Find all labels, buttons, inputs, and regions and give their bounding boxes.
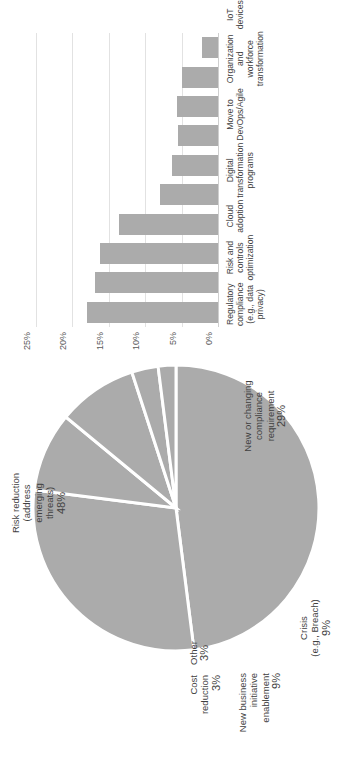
bar-slot bbox=[22, 62, 218, 91]
x-axis-line bbox=[218, 33, 219, 327]
pie-label-crisis-value: 9% bbox=[321, 583, 333, 673]
pie-label-cost-reduction: Cost reduction 3% bbox=[176, 675, 234, 749]
xlabel-digital-transformation: Digital transformation programs bbox=[225, 142, 357, 199]
bar-category-labels: Regulatory compliance (e.g., data privac… bbox=[225, 33, 357, 327]
pie-label-other-value: 3% bbox=[199, 623, 211, 683]
bar-slot bbox=[22, 180, 218, 209]
bar-cloud-adoption[interactable] bbox=[100, 243, 218, 264]
ytick-5: 5% bbox=[168, 332, 178, 345]
pie-label-new-business-value: 9% bbox=[271, 673, 283, 759]
xlabel-regulatory-compliance: Regulatory compliance (e.g., data privac… bbox=[225, 282, 357, 327]
bar-slot bbox=[22, 239, 218, 268]
bar-organization-workforce[interactable] bbox=[172, 155, 218, 176]
bar-blockchain-adoption[interactable] bbox=[202, 37, 218, 58]
ytick-20: 20% bbox=[58, 332, 68, 350]
bar-slot bbox=[22, 209, 218, 238]
bar-risk-controls-optimization[interactable] bbox=[95, 272, 218, 293]
chart-page: Risk reduction (address emerging threats… bbox=[0, 0, 361, 763]
bar-intelligent-automation[interactable] bbox=[182, 67, 218, 88]
bar-slot bbox=[22, 298, 218, 327]
xlabel-cloud-adoption: Cloud adoption bbox=[225, 199, 357, 234]
ytick-0: 0% bbox=[204, 332, 214, 345]
bar-devops-agile[interactable] bbox=[160, 184, 218, 205]
bar-slot bbox=[22, 268, 218, 297]
xlabel-devops-agile: Move to DevOps/Agile bbox=[225, 87, 357, 142]
bar-regulatory-compliance[interactable] bbox=[87, 302, 218, 323]
pie-chart-figure: Risk reduction (address emerging threats… bbox=[0, 363, 361, 763]
pie-label-risk-reduction-text: Risk reduction (address emerging threats… bbox=[10, 473, 56, 533]
pie-label-crisis-text: Crisis (e.g., Breach) bbox=[298, 599, 321, 657]
pie-label-other-text: Other bbox=[188, 641, 199, 665]
bar-iot-devices[interactable] bbox=[178, 125, 218, 146]
ytick-25: 25% bbox=[22, 332, 32, 350]
pie-label-new-business-text: New business initiative enablement bbox=[237, 673, 271, 732]
bar-slot bbox=[22, 121, 218, 150]
bar-plot-area: 0% 5% 10% 15% 20% 25% bbox=[22, 33, 219, 327]
pie-label-cost-reduction-value: 3% bbox=[211, 675, 223, 749]
pie-label-compliance: New or changing compliance requirement 2… bbox=[230, 361, 299, 471]
bar-series bbox=[22, 33, 218, 327]
bar-digital-transformation[interactable] bbox=[119, 214, 218, 235]
pie-label-new-business: New business initiative enablement 9% bbox=[225, 673, 294, 759]
pie-label-risk-reduction: Risk reduction (address emerging threats… bbox=[0, 443, 79, 563]
xlabel-organization-workforce: Organization and workforce transformatio… bbox=[225, 30, 357, 87]
pie-label-compliance-text: New or changing compliance requirement bbox=[242, 380, 276, 451]
pie-label-other: Other 3% bbox=[176, 623, 222, 683]
ytick-15: 15% bbox=[95, 332, 105, 350]
xlabel-risk-controls-optimization: Risk and controls optimization bbox=[225, 234, 357, 282]
bar-chart-figure: 0% 5% 10% 15% 20% 25% Regulatory complia… bbox=[0, 0, 361, 363]
bar-slot bbox=[22, 92, 218, 121]
bar-artificial-intelligence[interactable] bbox=[177, 96, 218, 117]
pie-label-risk-reduction-value: 48% bbox=[56, 443, 68, 563]
bar-slot bbox=[22, 33, 218, 62]
pie-label-compliance-value: 29% bbox=[276, 361, 288, 471]
ytick-10: 10% bbox=[131, 332, 141, 350]
xlabel-iot-devices: IoT devices bbox=[225, 0, 357, 30]
pie-label-crisis: Crisis (e.g., Breach) 9% bbox=[286, 583, 344, 673]
bar-slot bbox=[22, 151, 218, 180]
